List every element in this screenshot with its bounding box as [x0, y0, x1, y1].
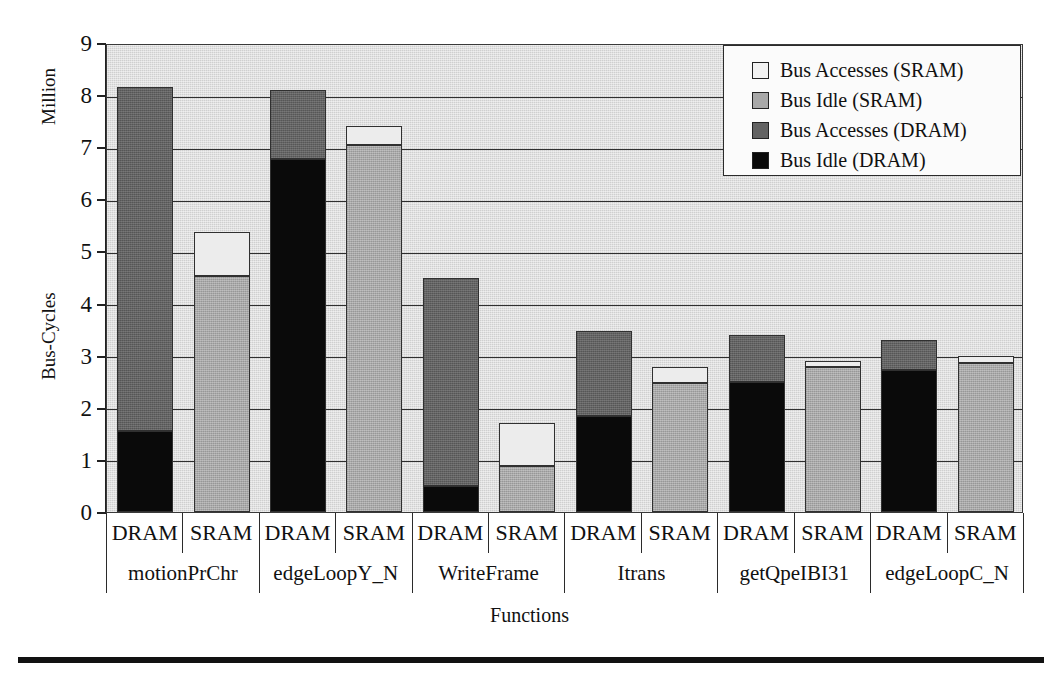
bar-segment-bus_accesses_sram — [805, 361, 861, 367]
bar-getQpeIBI31-DRAM — [729, 335, 785, 512]
bar-segment-bus_accesses_sram — [346, 126, 402, 144]
x-group-Itrans: DRAMSRAMItrans — [566, 513, 719, 593]
bar-segment-bus_accesses_sram — [958, 356, 1014, 364]
legend-swatch-icon — [752, 122, 769, 139]
y-axis-title: Bus-Cycles — [38, 292, 60, 380]
x-group-edgeLoopC_N: DRAMSRAMedgeLoopC_N — [871, 513, 1024, 593]
legend-swatch-icon — [752, 62, 769, 79]
legend-item-label: Bus Idle (SRAM) — [780, 90, 922, 110]
y-tick-label: 3 — [58, 345, 92, 368]
x-memory-row: DRAMSRAM — [413, 513, 565, 553]
x-group-getQpeIBI31: DRAMSRAMgetQpeIBI31 — [718, 513, 871, 593]
bar-segment-bus_idle_sram — [346, 145, 402, 512]
y-tick-label: 0 — [58, 501, 92, 524]
bar-WriteFrame-SRAM — [499, 423, 555, 512]
x-memory-label-DRAM: DRAM — [260, 513, 336, 553]
x-function-label: WriteFrame — [413, 553, 565, 593]
bar-segment-bus_idle_dram — [881, 370, 937, 512]
x-function-label: edgeLoopY_N — [260, 553, 412, 593]
x-function-label: edgeLoopC_N — [871, 553, 1023, 593]
x-function-label: Itrans — [566, 553, 718, 593]
bar-segment-bus_accesses_sram — [194, 232, 250, 276]
x-memory-label-SRAM: SRAM — [489, 513, 564, 553]
bar-edgeLoopY_N-DRAM — [270, 90, 326, 512]
bar-segment-bus_idle_dram — [729, 382, 785, 512]
bar-segment-bus_idle_dram — [576, 416, 632, 512]
bar-segment-bus_accesses_dram — [576, 331, 632, 415]
legend-item-bus_idle_dram[interactable]: Bus Idle (DRAM) — [752, 145, 1020, 175]
legend-item-label: Bus Accesses (SRAM) — [780, 60, 963, 80]
bar-segment-bus_accesses_dram — [270, 90, 326, 159]
x-group-edgeLoopY_N: DRAMSRAMedgeLoopY_N — [260, 513, 413, 593]
bar-segment-bus_accesses_dram — [729, 335, 785, 382]
y-tick-label: 1 — [58, 449, 92, 472]
bar-Itrans-SRAM — [652, 367, 708, 512]
y-tick-label: 5 — [58, 240, 92, 263]
bar-Itrans-DRAM — [576, 331, 632, 512]
legend-item-label: Bus Idle (DRAM) — [780, 150, 926, 170]
bar-edgeLoopY_N-SRAM — [346, 126, 402, 512]
chart-legend: Bus Accesses (SRAM)Bus Idle (SRAM)Bus Ac… — [723, 45, 1021, 176]
x-memory-row: DRAMSRAM — [566, 513, 718, 553]
bottom-rule — [18, 657, 1044, 663]
bar-motionPrChr-SRAM — [194, 232, 250, 512]
y-tick-label: 7 — [58, 136, 92, 159]
bar-segment-bus_accesses_dram — [881, 340, 937, 370]
bar-getQpeIBI31-SRAM — [805, 361, 861, 512]
y-axis-unit-label: Million — [38, 68, 60, 125]
x-memory-row: DRAMSRAM — [718, 513, 870, 553]
bar-segment-bus_idle_sram — [805, 367, 861, 512]
bus-cycles-stacked-bar-chart: Million Bus-Cycles 0123456789 Bus Access… — [0, 0, 1059, 673]
x-memory-label-SRAM: SRAM — [642, 513, 717, 553]
bar-segment-bus_idle_sram — [499, 466, 555, 512]
bar-edgeLoopC_N-DRAM — [881, 340, 937, 512]
bar-segment-bus_idle_sram — [194, 276, 250, 512]
x-function-label: motionPrChr — [107, 553, 259, 593]
legend-swatch-icon — [752, 152, 769, 169]
x-memory-row: DRAMSRAM — [107, 513, 259, 553]
bar-segment-bus_accesses_sram — [499, 423, 555, 466]
legend-swatch-icon — [752, 92, 769, 109]
x-axis-title: Functions — [0, 604, 1059, 627]
legend-item-bus_accesses_dram[interactable]: Bus Accesses (DRAM) — [752, 115, 1020, 145]
x-memory-label-DRAM: DRAM — [413, 513, 489, 553]
x-memory-label-DRAM: DRAM — [718, 513, 794, 553]
x-group-motionPrChr: DRAMSRAMmotionPrChr — [107, 513, 260, 593]
x-memory-label-DRAM: DRAM — [566, 513, 642, 553]
bar-segment-bus_idle_dram — [423, 486, 479, 512]
bar-WriteFrame-DRAM — [423, 278, 479, 513]
bar-segment-bus_accesses_sram — [652, 367, 708, 383]
bar-segment-bus_idle_sram — [652, 383, 708, 512]
bar-segment-bus_accesses_dram — [117, 87, 173, 431]
bar-segment-bus_idle_dram — [117, 431, 173, 512]
y-tick-label: 2 — [58, 397, 92, 420]
bar-segment-bus_idle_sram — [958, 363, 1014, 512]
x-function-label: getQpeIBI31 — [718, 553, 870, 593]
y-tick-label: 9 — [58, 32, 92, 55]
x-memory-label-SRAM: SRAM — [336, 513, 411, 553]
bar-segment-bus_accesses_dram — [423, 278, 479, 486]
x-memory-label-SRAM: SRAM — [795, 513, 870, 553]
bar-edgeLoopC_N-SRAM — [958, 356, 1014, 512]
gridline — [107, 201, 1022, 202]
bar-segment-bus_idle_dram — [270, 159, 326, 512]
bar-motionPrChr-DRAM — [117, 87, 173, 512]
y-tick-label: 4 — [58, 293, 92, 316]
x-memory-label-DRAM: DRAM — [871, 513, 947, 553]
legend-item-label: Bus Accesses (DRAM) — [780, 120, 967, 140]
x-memory-label-SRAM: SRAM — [948, 513, 1023, 553]
x-memory-row: DRAMSRAM — [260, 513, 412, 553]
x-axis-label-table: DRAMSRAMmotionPrChrDRAMSRAMedgeLoopY_NDR… — [106, 513, 1023, 593]
y-tick-label: 8 — [58, 84, 92, 107]
x-group-WriteFrame: DRAMSRAMWriteFrame — [413, 513, 566, 593]
x-memory-label-SRAM: SRAM — [183, 513, 258, 553]
legend-item-bus_accesses_sram[interactable]: Bus Accesses (SRAM) — [752, 55, 1020, 85]
y-tick-label: 6 — [58, 188, 92, 211]
legend-item-bus_idle_sram[interactable]: Bus Idle (SRAM) — [752, 85, 1020, 115]
x-memory-row: DRAMSRAM — [871, 513, 1023, 553]
x-memory-label-DRAM: DRAM — [107, 513, 183, 553]
